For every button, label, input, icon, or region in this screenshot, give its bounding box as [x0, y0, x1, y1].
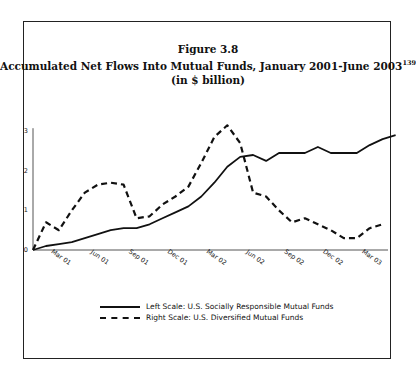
chart-legend: Left Scale: U.S. Socially Responsible Mu…	[100, 301, 334, 323]
line-chart: 0123 Mar 01Jun 01Sep 01Dec 01Mar 02Jun 0…	[0, 0, 416, 382]
x-tick-label: Mar 02	[205, 248, 228, 268]
x-tick-label: Mar 03	[360, 248, 383, 268]
x-tick-label: Mar 01	[49, 248, 72, 268]
y-tick-label: 3	[24, 127, 28, 135]
y-tick-label: 0	[24, 246, 28, 254]
chart-series	[33, 125, 396, 250]
y-tick-label: 1	[24, 206, 28, 214]
diversified-funds-line	[33, 125, 383, 250]
legend-item-socially-responsible: Left Scale: U.S. Socially Responsible Mu…	[100, 301, 334, 312]
solid-line-swatch-icon	[100, 306, 140, 308]
socially-responsible-funds-line	[33, 135, 396, 250]
x-tick-label: Sep 02	[283, 248, 306, 268]
legend-item-diversified: Right Scale: U.S. Diversified Mutual Fun…	[100, 312, 334, 323]
y-axis-ticks: 0123	[24, 127, 28, 254]
x-tick-label: Sep 01	[127, 248, 150, 268]
dashed-line-swatch-icon	[100, 317, 140, 319]
y-tick-label: 2	[24, 167, 28, 175]
